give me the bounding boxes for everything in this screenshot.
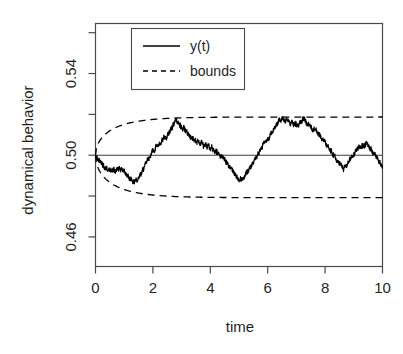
chart-figure: 0.460.500.54 0246810 time dynamical beha… [0,0,403,354]
legend-label-bounds: bounds [190,63,236,79]
x-tick-label: 4 [206,279,214,296]
legend-box [132,29,245,90]
y-tick-label: 0.54 [62,59,79,88]
x-tick-label: 2 [149,279,157,296]
chart-legend[interactable]: y(t) bounds [132,29,245,90]
x-tick-label: 10 [374,279,391,296]
y-axis-tick-labels: 0.460.500.54 [62,59,79,252]
plot-canvas: 0.460.500.54 0246810 time dynamical beha… [0,0,403,354]
x-tick-label: 6 [264,279,272,296]
x-tick-label: 0 [91,279,99,296]
y-tick-label: 0.50 [62,141,79,170]
y-axis-title: dynamical behavior [19,85,36,214]
y-tick-label: 0.46 [62,222,79,251]
x-axis-title: time [226,318,254,335]
legend-label-yt: y(t) [190,38,210,54]
x-tick-label: 8 [321,279,329,296]
